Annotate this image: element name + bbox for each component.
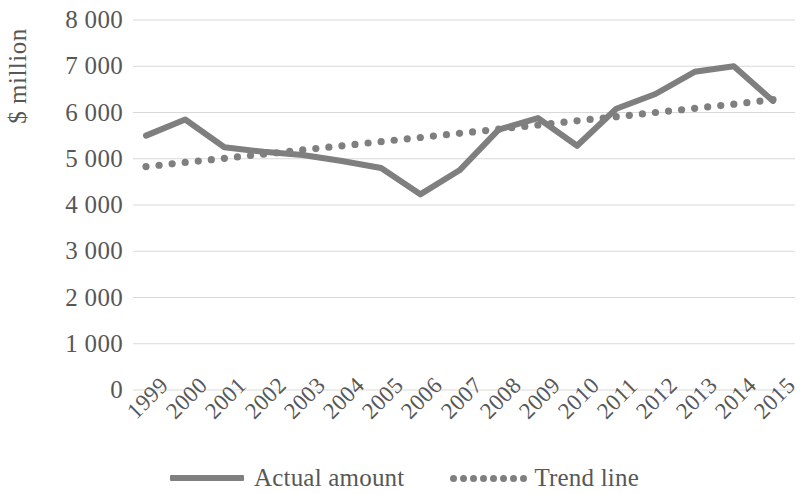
chart-legend: Actual amountTrend line [0,462,809,494]
legend-dot [520,475,527,482]
trend-dot [338,142,345,149]
trend-dot [169,160,176,167]
plot-svg [133,0,795,400]
trend-dot [404,135,411,142]
trend-dot [691,105,698,112]
y-axis-tick-labels: 8 0007 0006 0005 0004 0003 0002 0001 000… [0,0,123,400]
legend-dot [470,475,477,482]
x-axis-tick-labels: 1999200020012002200320042005200620072008… [0,392,809,462]
trend-dot [508,124,515,131]
y-axis-tick-label: 6 000 [3,100,123,125]
trend-dot [469,128,476,135]
y-axis-tick-label: 1 000 [3,331,123,356]
trend-dot [756,97,763,104]
y-axis-tick-label: 5 000 [3,146,123,171]
line-chart: $ million 8 0007 0006 0005 0004 0003 000… [0,0,809,494]
trend-dot [495,126,502,133]
legend-dot [510,475,517,482]
trend-dot [325,144,332,151]
trend-dot [443,131,450,138]
trend-dot [234,153,241,160]
trend-dot [417,134,424,141]
trend-dot [155,162,162,169]
legend-item-label: Actual amount [254,464,404,492]
trend-dot [273,149,280,156]
trend-dot [626,112,633,119]
trend-dot [560,119,567,126]
y-axis-tick-label: 7 000 [3,53,123,78]
legend-dot [450,475,457,482]
y-axis-tick-label: 4 000 [3,192,123,217]
trend-dot [587,116,594,123]
legend-dot [490,475,497,482]
legend-item[interactable]: Trend line [450,464,639,492]
trend-dot [600,114,607,121]
trend-dot [534,121,541,128]
trend-dot [547,120,554,127]
trend-dot [639,110,646,117]
trend-dot [208,156,215,163]
trend-dot [286,148,293,155]
legend-dot [480,475,487,482]
trend-dot [391,137,398,144]
trend-dot [704,103,711,110]
trend-dot [247,152,254,159]
trend-dot [743,99,750,106]
trend-dot [221,155,228,162]
trend-dot [717,102,724,109]
trend-dot [456,130,463,137]
trend-dot [652,109,659,116]
y-axis-tick-label: 2 000 [3,285,123,310]
trend-dot [521,123,528,130]
trend-dot [678,106,685,113]
trend-dot [260,151,267,158]
legend-item-label: Trend line [534,464,639,492]
legend-dot [500,475,507,482]
trend-dot [730,101,737,108]
trend-dot [613,113,620,120]
trend-dot [299,146,306,153]
trend-dot [482,127,489,134]
trend-dot [430,132,437,139]
legend-dot [460,475,467,482]
legend-dotted-line-icon [450,475,524,482]
trend-dot [769,96,776,103]
legend-solid-line-icon [170,475,244,481]
y-axis-tick-label: 8 000 [3,7,123,32]
trend-dot [195,157,202,164]
trend-dot [142,163,149,170]
trend-dot [312,145,319,152]
trend-dot [351,141,358,148]
trend-dot [378,138,385,145]
legend-item[interactable]: Actual amount [170,464,404,492]
trend-dot [573,117,580,124]
y-axis-tick-label: 3 000 [3,238,123,263]
trend-dot [182,159,189,166]
trend-dot [364,139,371,146]
plot-area [133,0,795,400]
trend-dot [665,108,672,115]
